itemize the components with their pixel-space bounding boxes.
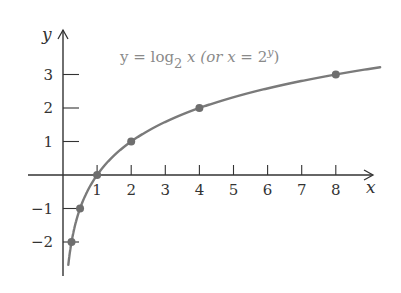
data-point bbox=[127, 138, 135, 146]
x-tick-label: 7 bbox=[297, 181, 307, 199]
y-tick-label: 3 bbox=[43, 66, 53, 84]
log-curve-path bbox=[68, 67, 380, 265]
x-tick-label: 3 bbox=[161, 181, 171, 199]
x-tick-label: 6 bbox=[263, 181, 273, 199]
y-tick-label: −1 bbox=[31, 200, 53, 218]
x-tick-label: 4 bbox=[195, 181, 205, 199]
y-tick-label: −2 bbox=[31, 233, 53, 251]
data-point bbox=[93, 171, 101, 179]
y-tick-label: 2 bbox=[43, 99, 53, 117]
data-point bbox=[76, 205, 84, 213]
data-point bbox=[195, 104, 203, 112]
x-tick-label: 2 bbox=[126, 181, 136, 199]
y-tick-label: 1 bbox=[43, 133, 53, 151]
x-tick-label: 8 bbox=[331, 181, 341, 199]
x-tick-label: 1 bbox=[92, 181, 102, 199]
axes bbox=[28, 30, 373, 276]
log-graph-figure: 12345678−2−1123 y = log2 x (or x = 2y) y… bbox=[0, 0, 401, 293]
log-curve bbox=[68, 67, 380, 265]
y-axis-label: y bbox=[41, 24, 52, 44]
tick-labels: 12345678−2−1123 bbox=[31, 66, 341, 252]
x-tick-label: 5 bbox=[229, 181, 239, 199]
data-point bbox=[68, 238, 76, 246]
data-points bbox=[68, 71, 340, 247]
data-point bbox=[332, 71, 340, 79]
formula-label: y = log2 x (or x = 2y) bbox=[119, 46, 279, 71]
plot-area: 12345678−2−1123 y = log2 x (or x = 2y) y… bbox=[0, 0, 401, 293]
x-axis-label: x bbox=[366, 177, 376, 197]
